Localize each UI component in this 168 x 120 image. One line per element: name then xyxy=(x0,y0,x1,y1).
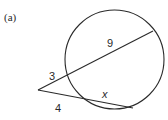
secant-diagram: (a) 3 9 4 x xyxy=(0,0,168,120)
upper-external-segment-label: 3 xyxy=(49,70,55,82)
lower-internal-segment-label: x xyxy=(101,88,108,100)
upper-internal-segment-label: 9 xyxy=(107,37,113,49)
upper-secant-line xyxy=(38,31,153,90)
part-label: (a) xyxy=(4,11,17,24)
lower-external-segment-label: 4 xyxy=(55,102,61,114)
circle xyxy=(65,10,164,109)
lower-secant-line xyxy=(38,90,133,108)
